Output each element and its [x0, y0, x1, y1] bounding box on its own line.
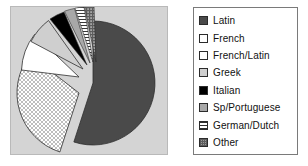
legend-item-french-latin[interactable]: French/Latin — [199, 47, 297, 64]
pie-chart-figure: Latin French French/Latin Greek Italian … — [0, 0, 308, 166]
mid-gray-swatch-icon — [199, 103, 208, 112]
legend-item-label: German/Dutch — [213, 120, 279, 131]
chart-legend: Latin French French/Latin Greek Italian … — [193, 7, 298, 155]
black-swatch-icon — [199, 86, 208, 95]
legend-item-label: Sp/Portuguese — [213, 102, 280, 113]
solid-dark-swatch-icon — [199, 16, 208, 25]
legend-item-italian[interactable]: Italian — [199, 82, 297, 99]
horizontal-lines-swatch-icon — [199, 121, 208, 130]
chart-plot-area — [10, 6, 168, 155]
legend-item-german-dutch[interactable]: German/Dutch — [199, 116, 297, 133]
light-gray-swatch-icon — [199, 68, 208, 77]
legend-item-label: Latin — [213, 15, 235, 26]
legend-item-label: Greek — [213, 67, 241, 78]
legend-item-label: Other — [213, 137, 239, 148]
white-swatch-icon — [199, 51, 208, 60]
legend-item-label: French/Latin — [213, 50, 270, 61]
legend-item-sp-portuguese[interactable]: Sp/Portuguese — [199, 99, 297, 116]
pie-svg — [11, 7, 167, 154]
legend-item-label: Italian — [213, 85, 240, 96]
legend-item-label: French — [213, 33, 245, 44]
checker-swatch-icon — [199, 138, 208, 147]
legend-item-greek[interactable]: Greek — [199, 64, 297, 81]
dotted-swatch-icon — [199, 34, 208, 43]
legend-item-other[interactable]: Other — [199, 134, 297, 151]
legend-item-french[interactable]: French — [199, 29, 297, 46]
legend-item-latin[interactable]: Latin — [199, 12, 297, 29]
